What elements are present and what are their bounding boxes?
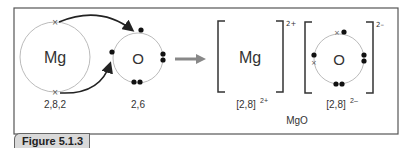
ionic-bonding-diagram: Mg × × 2,8,2 O 2,6 2+ Mg [2,8] 2+ 2– xyxy=(0,0,410,148)
svg-text:2+: 2+ xyxy=(286,20,296,28)
svg-text:O: O xyxy=(132,50,144,67)
svg-text:2+: 2+ xyxy=(260,97,268,104)
reaction-arrow-icon xyxy=(175,54,206,64)
svg-text:2–: 2– xyxy=(376,21,384,29)
electron-transfer-arrow xyxy=(59,15,132,30)
electron-cross: × xyxy=(52,18,59,27)
compound-label: MgO xyxy=(286,115,308,126)
o-atom: O 2,6 xyxy=(109,27,165,110)
svg-text:Mg: Mg xyxy=(44,49,66,66)
figure-frame xyxy=(14,8,398,134)
svg-text:Mg: Mg xyxy=(239,49,261,66)
electron-transfer-arrow xyxy=(60,64,110,93)
svg-text:×: × xyxy=(311,59,317,67)
svg-text:[2,8]: [2,8] xyxy=(326,99,346,110)
svg-text:2,8,2: 2,8,2 xyxy=(44,99,67,110)
electron-cross: × xyxy=(52,88,59,97)
mg-atom: Mg × × 2,8,2 xyxy=(20,18,90,110)
svg-text:O: O xyxy=(333,51,345,68)
figure-caption: Figure 5.1.3 xyxy=(14,133,90,148)
mg-ion: 2+ Mg [2,8] 2+ xyxy=(218,20,296,110)
o-ion: 2– O × × [2,8] 2– xyxy=(305,21,384,110)
svg-text:2,6: 2,6 xyxy=(131,99,145,110)
svg-text:×: × xyxy=(334,29,340,37)
svg-text:[2,8]: [2,8] xyxy=(236,99,256,110)
svg-text:2–: 2– xyxy=(350,97,358,104)
